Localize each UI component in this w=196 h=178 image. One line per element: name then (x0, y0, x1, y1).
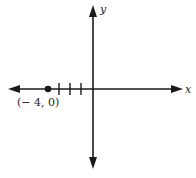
y-axis-up-arrow-icon (89, 5, 97, 17)
point-label: (− 4, 0) (17, 96, 59, 109)
x-axis-right-arrow-icon (171, 85, 183, 93)
x-axis-label: x (185, 83, 192, 96)
x-axis-left-arrow-icon (8, 85, 20, 93)
coordinate-plane: (− 4, 0) x y (0, 0, 196, 178)
x-axis (8, 85, 183, 93)
point-marker (45, 86, 52, 93)
y-axis-down-arrow-icon (89, 157, 97, 169)
y-axis-label: y (99, 3, 107, 16)
y-axis (89, 5, 97, 169)
